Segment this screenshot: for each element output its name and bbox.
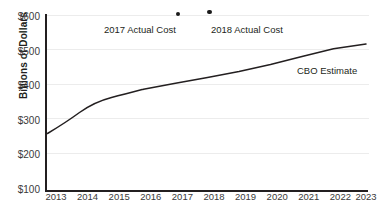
x-tick-label: 2016: [134, 192, 168, 202]
x-tick-label: 2014: [71, 192, 105, 202]
annotation-2018-actual-cost: 2018 Actual Cost: [211, 25, 283, 35]
annotation-2017-actual-cost: 2017 Actual Cost: [104, 25, 176, 35]
x-tick-label: 2021: [292, 192, 326, 202]
annotation-cbo-estimate: CBO Estimate: [297, 66, 357, 76]
x-tick-label: 2018: [197, 192, 231, 202]
x-tick-label: 2023: [349, 192, 381, 202]
x-tick-label: 2017: [165, 192, 199, 202]
x-tick-label: 2013: [39, 192, 73, 202]
x-tick-label: 2019: [229, 192, 263, 202]
x-tick-label: 2015: [102, 192, 136, 202]
x-tick-label: 2020: [260, 192, 294, 202]
data-point-2018-actual: [207, 10, 212, 15]
